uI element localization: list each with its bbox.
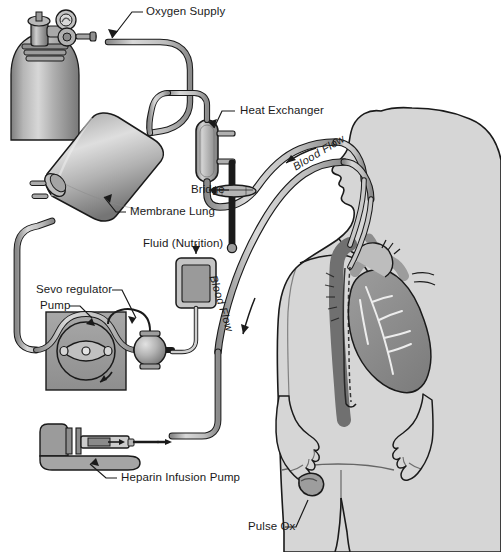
- label-heparin-infusion-pump: Heparin Infusion Pump: [121, 472, 240, 484]
- label-sevo-regulator: Sevo regulator: [36, 284, 112, 296]
- label-fluid-nutrition: Fluid (Nutrition): [143, 238, 223, 250]
- label-bridge: Bridge: [191, 184, 225, 196]
- roller-pump: [36, 312, 136, 390]
- heparin-infusion-pump: [40, 424, 172, 470]
- label-pulse-ox: Pulse Ox: [248, 521, 295, 533]
- label-oxygen-supply: Oxygen Supply: [146, 6, 225, 18]
- diagram-canvas: [0, 0, 501, 552]
- oxygen-tank: [11, 10, 96, 140]
- fluid-nutrition-bag: [172, 258, 216, 352]
- ecmo-diagram: Oxygen Supply Heat Exchanger Bridge Memb…: [0, 0, 501, 552]
- pulse-oximeter: [299, 473, 324, 495]
- label-membrane-lung: Membrane Lung: [130, 206, 215, 218]
- label-pump: Pump: [40, 300, 70, 312]
- label-heat-exchanger: Heat Exchanger: [240, 105, 324, 117]
